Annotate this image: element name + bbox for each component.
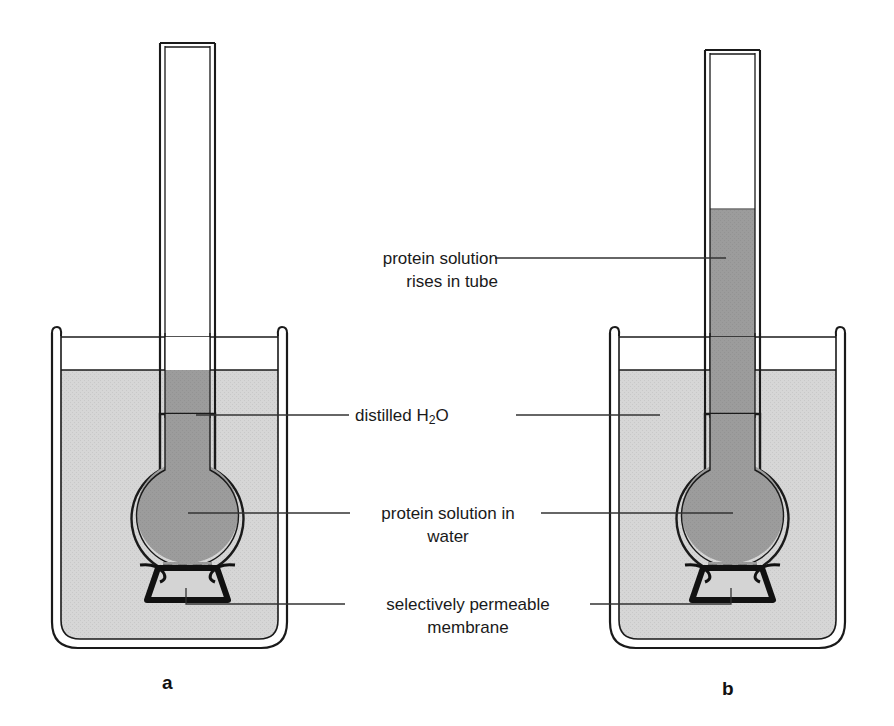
label-rises-line1: protein solution bbox=[383, 249, 498, 268]
panel-letter-a: a bbox=[162, 672, 173, 694]
tube-inside-beaker-a bbox=[160, 333, 215, 418]
label-membrane-line2: membrane bbox=[348, 616, 588, 639]
label-membrane-line1: selectively permeable bbox=[386, 595, 549, 614]
label-protein-line1: protein solution in bbox=[381, 504, 514, 523]
label-selectively-permeable-membrane: selectively permeable membrane bbox=[348, 593, 588, 639]
diagram-canvas: protein solution rises in tube distilled… bbox=[0, 0, 894, 726]
panel-letter-b: b bbox=[722, 678, 734, 700]
panel-b bbox=[610, 50, 845, 648]
selectively-permeable-membrane-b bbox=[685, 565, 780, 600]
label-distilled-water: distilled H2O bbox=[355, 404, 449, 432]
label-distilled-sub: 2 bbox=[429, 413, 436, 427]
label-distilled-post: O bbox=[436, 406, 449, 425]
tube-inside-beaker-b bbox=[705, 333, 760, 418]
label-protein-line2: water bbox=[354, 525, 542, 548]
label-protein-rises-in-tube: protein solution rises in tube bbox=[338, 247, 498, 293]
selectively-permeable-membrane-a bbox=[140, 565, 235, 600]
panel-a bbox=[52, 43, 287, 648]
label-protein-solution-in-water: protein solution in water bbox=[354, 502, 542, 548]
label-rises-line2: rises in tube bbox=[338, 270, 498, 293]
label-distilled-pre: distilled H bbox=[355, 406, 429, 425]
